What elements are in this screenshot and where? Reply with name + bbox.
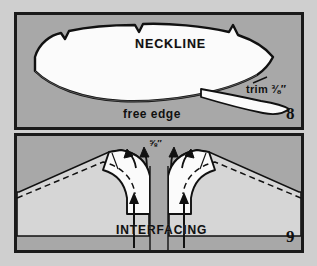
panel-number-9: 9 xyxy=(286,227,295,247)
instruction-sheet: NECKLINE free edge trim ⅜″ 8 xyxy=(0,0,317,266)
panel-9: ⅝″ INTERFACING xyxy=(14,133,304,253)
panel-number-8: 8 xyxy=(286,104,295,124)
label-interfacing: INTERFACING xyxy=(116,223,207,237)
label-seam-allowance: ⅝″ xyxy=(149,137,162,148)
label-neckline: NECKLINE xyxy=(135,37,206,51)
label-free-edge: free edge xyxy=(123,107,181,121)
neckline-facing-shape xyxy=(35,24,273,101)
center-front-opening xyxy=(150,166,168,250)
panel-8: NECKLINE free edge trim ⅜″ xyxy=(14,12,304,130)
label-trim: trim ⅜″ xyxy=(246,83,286,95)
